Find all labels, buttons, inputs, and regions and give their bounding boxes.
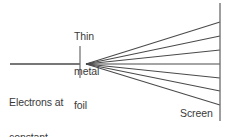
label-thin-metal-foil: Thin metal foil — [74, 8, 99, 135]
scattered-ray-1 — [86, 22, 220, 64]
label-foil-line-2: metal — [74, 66, 99, 78]
label-foil-line-1: Thin — [74, 31, 99, 43]
label-source-line-1: Electrons at — [9, 97, 63, 109]
scattered-ray-5 — [86, 64, 220, 78]
label-screen: Screen — [180, 108, 213, 120]
label-source-line-2: constant — [9, 132, 63, 138]
label-foil-line-3: foil — [74, 100, 99, 112]
scattered-ray-2 — [86, 36, 220, 64]
scattered-rays-group — [86, 22, 220, 105]
scattered-ray-7 — [86, 64, 220, 105]
scattering-diagram-figure: Thin metal foil Electrons at constant sp… — [0, 0, 236, 137]
scattered-ray-3 — [86, 50, 220, 64]
label-electron-source: Electrons at constant speed — [9, 74, 63, 137]
scattered-ray-6 — [86, 64, 220, 91]
